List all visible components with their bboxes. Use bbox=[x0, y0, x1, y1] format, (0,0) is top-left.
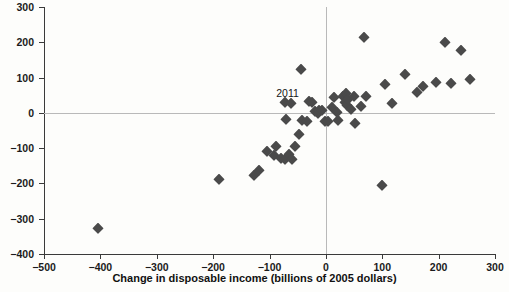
data-point-marker bbox=[440, 37, 451, 48]
x-axis-title: Change in disposable income (billions of… bbox=[0, 272, 509, 284]
x-tick bbox=[495, 254, 496, 259]
data-point-marker bbox=[92, 223, 103, 234]
data-point-marker bbox=[281, 114, 292, 125]
plot-area: −500−400−300−200−1000100200300 −400−300−… bbox=[44, 7, 495, 254]
data-point-marker bbox=[328, 92, 339, 103]
data-point-marker bbox=[446, 78, 457, 89]
y-tick-label: 100 bbox=[16, 72, 34, 84]
y-axis-line bbox=[44, 7, 45, 254]
y-tick bbox=[39, 7, 44, 8]
y-tick-label: −300 bbox=[10, 213, 34, 225]
data-point-marker bbox=[377, 180, 388, 191]
data-point-marker bbox=[333, 115, 344, 126]
scatter-chart-figure: −500−400−300−200−1000100200300 −400−300−… bbox=[0, 0, 509, 292]
x-tick bbox=[382, 254, 383, 259]
data-point-marker bbox=[296, 63, 307, 74]
x-tick bbox=[213, 254, 214, 259]
y-tick-label: −400 bbox=[10, 248, 34, 260]
y-tick-label: 200 bbox=[16, 36, 34, 48]
y-tick bbox=[39, 148, 44, 149]
data-point-marker bbox=[380, 79, 391, 90]
data-point-marker bbox=[361, 91, 372, 102]
y-tick bbox=[39, 183, 44, 184]
zero-vertical-reference-line bbox=[326, 7, 327, 254]
data-point-marker bbox=[294, 129, 305, 140]
x-tick bbox=[439, 254, 440, 259]
y-tick bbox=[39, 254, 44, 255]
y-tick-label: −100 bbox=[10, 142, 34, 154]
x-axis-title-text: Change in disposable income (billions of… bbox=[112, 272, 396, 284]
zero-horizontal-reference-line bbox=[44, 113, 495, 114]
y-tick-label: 300 bbox=[16, 1, 34, 13]
x-tick bbox=[157, 254, 158, 259]
point-annotation-label: 2011 bbox=[276, 87, 299, 99]
y-tick bbox=[39, 113, 44, 114]
y-tick bbox=[39, 219, 44, 220]
x-tick bbox=[44, 254, 45, 259]
data-point-marker bbox=[431, 76, 442, 87]
data-point-marker bbox=[359, 32, 370, 43]
data-point-marker bbox=[213, 174, 224, 185]
y-tick bbox=[39, 42, 44, 43]
data-point-marker bbox=[464, 74, 475, 85]
x-tick bbox=[100, 254, 101, 259]
y-tick-label: −200 bbox=[10, 177, 34, 189]
y-tick bbox=[39, 78, 44, 79]
data-point-marker bbox=[350, 117, 361, 128]
data-point-marker bbox=[387, 98, 398, 109]
y-tick-label: 0 bbox=[28, 107, 34, 119]
x-tick bbox=[326, 254, 327, 259]
data-point-marker bbox=[456, 45, 467, 56]
data-point-marker bbox=[399, 69, 410, 80]
data-point-marker bbox=[356, 100, 367, 111]
x-tick bbox=[270, 254, 271, 259]
